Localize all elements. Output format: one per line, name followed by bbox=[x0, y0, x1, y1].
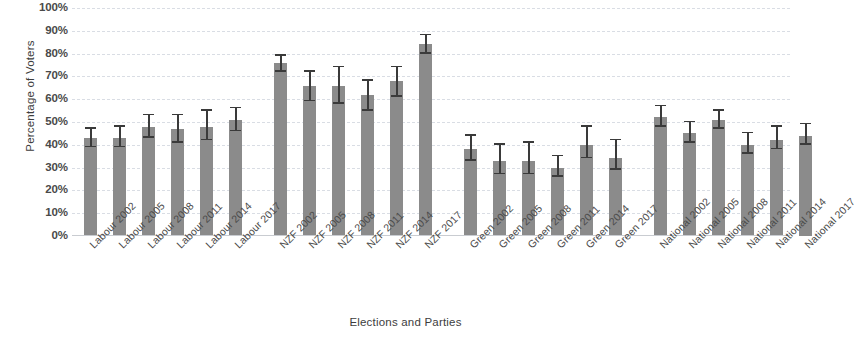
error-bar bbox=[338, 67, 340, 103]
error-bar-cap-bottom bbox=[143, 136, 154, 138]
error-bar-cap-bottom bbox=[742, 152, 753, 154]
bar-group-item bbox=[332, 8, 345, 236]
bar bbox=[654, 117, 667, 236]
error-bar bbox=[367, 81, 369, 111]
plot-area bbox=[72, 8, 790, 236]
error-bar-cap-top bbox=[275, 54, 286, 56]
error-bar-cap-top bbox=[800, 123, 811, 125]
bar-group-item bbox=[303, 8, 316, 236]
error-bar-cap-top bbox=[230, 107, 241, 109]
error-bar-cap-top bbox=[465, 134, 476, 136]
error-bar-cap-top bbox=[523, 141, 534, 143]
error-bar-cap-bottom bbox=[655, 125, 666, 127]
y-tick-label: 0% bbox=[24, 230, 68, 242]
error-bar-cap-bottom bbox=[114, 146, 125, 148]
error-bar bbox=[586, 127, 588, 159]
y-tick-label: 20% bbox=[24, 184, 68, 196]
bars-layer bbox=[72, 8, 790, 236]
bar-group-item bbox=[142, 8, 155, 236]
error-bar-cap-bottom bbox=[552, 175, 563, 177]
bar-group-item bbox=[493, 8, 506, 236]
error-bar-cap-bottom bbox=[581, 157, 592, 159]
bar-group-item bbox=[171, 8, 184, 236]
y-tick-label: 100% bbox=[24, 2, 68, 14]
error-bar-cap-bottom bbox=[172, 141, 183, 143]
error-bar bbox=[425, 35, 427, 53]
error-bar-cap-top bbox=[85, 127, 96, 129]
error-bar-cap-top bbox=[742, 132, 753, 134]
y-tick-label: 90% bbox=[24, 25, 68, 37]
error-bar bbox=[805, 124, 807, 145]
error-bar-cap-bottom bbox=[304, 100, 315, 102]
error-bar bbox=[396, 67, 398, 97]
error-bar bbox=[689, 122, 691, 143]
bar-group-item bbox=[609, 8, 622, 236]
error-bar bbox=[718, 111, 720, 129]
bar bbox=[419, 44, 432, 236]
error-bar-cap-top bbox=[494, 143, 505, 145]
y-tick-label: 80% bbox=[24, 48, 68, 60]
bar-group-item bbox=[113, 8, 126, 236]
error-bar-cap-bottom bbox=[362, 109, 373, 111]
bar-group-item bbox=[712, 8, 725, 236]
bar-group-item bbox=[361, 8, 374, 236]
error-bar-cap-top bbox=[420, 34, 431, 36]
error-bar bbox=[557, 156, 559, 177]
error-bar-cap-top bbox=[610, 139, 621, 141]
error-bar-cap-bottom bbox=[230, 130, 241, 132]
error-bar-cap-bottom bbox=[684, 141, 695, 143]
bar bbox=[84, 138, 97, 236]
bar-group-item bbox=[229, 8, 242, 236]
bar-group-item bbox=[770, 8, 783, 236]
error-bar-cap-bottom bbox=[771, 148, 782, 150]
bar-group-item bbox=[551, 8, 564, 236]
error-bar-cap-bottom bbox=[494, 173, 505, 175]
y-tick-label: 50% bbox=[24, 116, 68, 128]
error-bar-cap-top bbox=[771, 125, 782, 127]
bar-group-item bbox=[464, 8, 477, 236]
bar-group-item bbox=[741, 8, 754, 236]
error-bar-cap-top bbox=[655, 105, 666, 107]
bar-group-item bbox=[84, 8, 97, 236]
y-tick-label: 40% bbox=[24, 139, 68, 151]
error-bar-cap-top bbox=[304, 70, 315, 72]
bar-group-item bbox=[683, 8, 696, 236]
bar bbox=[464, 149, 477, 236]
error-bar-cap-top bbox=[333, 66, 344, 68]
error-bar bbox=[206, 111, 208, 141]
error-bar-cap-top bbox=[201, 109, 212, 111]
error-bar bbox=[90, 129, 92, 147]
error-bar-cap-top bbox=[143, 114, 154, 116]
error-bar bbox=[148, 115, 150, 138]
error-bar bbox=[615, 140, 617, 170]
bar-group-item bbox=[390, 8, 403, 236]
error-bar bbox=[528, 143, 530, 175]
error-bar bbox=[235, 108, 237, 131]
y-tick-label: 60% bbox=[24, 93, 68, 105]
error-bar bbox=[470, 136, 472, 161]
error-bar bbox=[309, 72, 311, 102]
error-bar bbox=[499, 145, 501, 175]
error-bar bbox=[660, 106, 662, 127]
error-bar-cap-top bbox=[172, 114, 183, 116]
bar-group-item bbox=[200, 8, 213, 236]
error-bar-cap-bottom bbox=[275, 70, 286, 72]
bar-group-item bbox=[419, 8, 432, 236]
error-bar-cap-bottom bbox=[523, 173, 534, 175]
error-bar-cap-top bbox=[391, 66, 402, 68]
error-bar bbox=[776, 127, 778, 150]
error-bar-cap-top bbox=[552, 155, 563, 157]
y-tick-label: 10% bbox=[24, 207, 68, 219]
x-axis-ticks: Labour 2002Labour 2005Labour 2008Labour … bbox=[72, 238, 790, 310]
error-bar-cap-top bbox=[684, 121, 695, 123]
error-bar bbox=[119, 127, 121, 148]
error-bar-cap-bottom bbox=[85, 146, 96, 148]
error-bar-cap-top bbox=[581, 125, 592, 127]
error-bar-cap-bottom bbox=[610, 168, 621, 170]
bar-group-item bbox=[654, 8, 667, 236]
y-tick-label: 30% bbox=[24, 162, 68, 174]
bar-group-item bbox=[522, 8, 535, 236]
error-bar bbox=[747, 133, 749, 154]
error-bar bbox=[177, 115, 179, 142]
error-bar-cap-bottom bbox=[420, 52, 431, 54]
